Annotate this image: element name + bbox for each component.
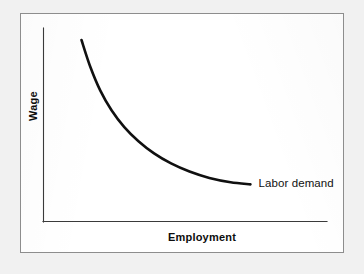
figure-root: Employment Wage Labor demand: [0, 0, 364, 274]
labor-demand-curve: [81, 40, 250, 184]
y-axis-title: Wage: [27, 99, 39, 121]
labor-demand-label: Labor demand: [258, 177, 333, 189]
x-axis-title: Employment: [0, 231, 364, 243]
